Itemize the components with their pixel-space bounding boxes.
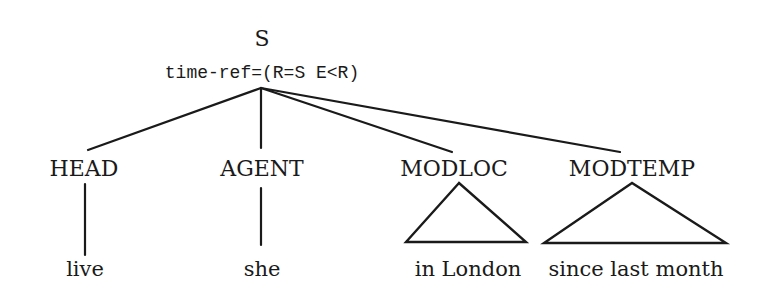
- triangle-modloc: [406, 183, 526, 242]
- node-label-head: HEAD: [50, 156, 119, 181]
- triangle-modtemp: [544, 183, 726, 243]
- syntax-tree: S time-ref=(R=S E<R) HEAD live AGENT she…: [0, 0, 766, 294]
- node-label-agent: AGENT: [219, 156, 304, 181]
- root-feature: time-ref=(R=S E<R): [165, 63, 359, 83]
- leaf-modtemp: since last month: [548, 257, 723, 281]
- root-edges: [88, 88, 620, 152]
- root-node: S time-ref=(R=S E<R): [165, 26, 359, 83]
- leaf-agent: she: [244, 257, 281, 281]
- edge-head: [88, 88, 261, 150]
- edge-modtemp: [261, 88, 620, 152]
- root-label: S: [254, 26, 269, 51]
- edge-modloc: [261, 88, 452, 152]
- node-agent: AGENT she: [219, 156, 304, 281]
- node-head: HEAD live: [50, 156, 119, 281]
- leaf-head: live: [66, 257, 104, 281]
- node-label-modloc: MODLOC: [400, 156, 508, 181]
- node-modloc: MODLOC in London: [400, 156, 526, 281]
- leaf-modloc: in London: [415, 257, 522, 281]
- node-modtemp: MODTEMP since last month: [544, 156, 726, 281]
- node-label-modtemp: MODTEMP: [569, 156, 695, 181]
